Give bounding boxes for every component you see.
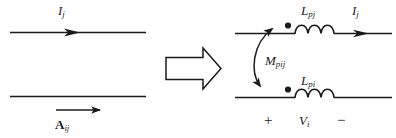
voltage-subscript: i: [307, 119, 309, 129]
mutual-inductance-symbol: M: [265, 53, 276, 68]
upper-inductor-subscript: pj: [308, 9, 315, 19]
left-current-label: Ij: [58, 4, 65, 19]
mutual-inductance-label: Mpij: [265, 54, 285, 69]
voltage-label: Vi: [299, 114, 309, 129]
lower-polarity-dot: [285, 86, 291, 92]
vector-potential-symbol: A: [55, 117, 64, 132]
upper-inductor-label: Lpj: [301, 4, 315, 19]
mutual-inductance-subscript: pij: [276, 59, 285, 69]
upper-inductor-coil: [295, 25, 334, 33]
upper-branch-current-subscript: j: [356, 9, 358, 19]
lower-inductor-label: Lpi: [301, 74, 315, 89]
voltage-minus-sign: −: [337, 113, 345, 128]
left-diagram-group: [10, 29, 146, 110]
upper-polarity-dot: [285, 22, 291, 28]
vector-potential-label: Aij: [55, 118, 69, 133]
upper-branch-current-label: Ij: [352, 4, 359, 19]
lower-inductor-coil: [295, 89, 334, 97]
voltage-plus-sign: +: [264, 113, 272, 128]
figure-canvas: Ij Aij Lpj Ij Mpij Lpi + Vi −: [0, 0, 396, 138]
left-current-subscript: j: [62, 9, 64, 19]
implies-arrow-shape: [166, 48, 221, 89]
lower-inductor-subscript: pi: [308, 79, 315, 89]
vector-potential-subscript: ij: [64, 123, 69, 133]
voltage-symbol: V: [299, 113, 307, 128]
